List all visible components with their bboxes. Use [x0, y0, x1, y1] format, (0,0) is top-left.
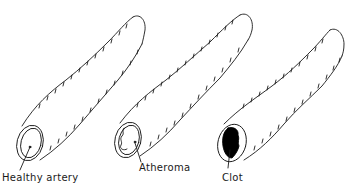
- healthy-artery-label: Healthy artery: [2, 172, 78, 183]
- clot-artery-illustration: [214, 29, 344, 168]
- clot-label: Clot: [222, 172, 243, 183]
- artery-diagram: Healthy artery Atheroma Clot: [0, 0, 353, 185]
- artery-illustrations: [0, 0, 353, 185]
- atheroma-label: Atheroma: [139, 162, 190, 173]
- healthy-artery-illustration: [13, 16, 145, 170]
